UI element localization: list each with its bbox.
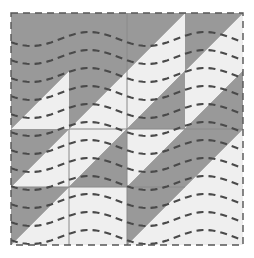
quilt-figure [0, 0, 254, 258]
quilt-svg [0, 0, 254, 258]
cell-r0c1-solid-dark-fill [69, 13, 127, 71]
cell-r0c1-solid-dark [69, 13, 127, 71]
